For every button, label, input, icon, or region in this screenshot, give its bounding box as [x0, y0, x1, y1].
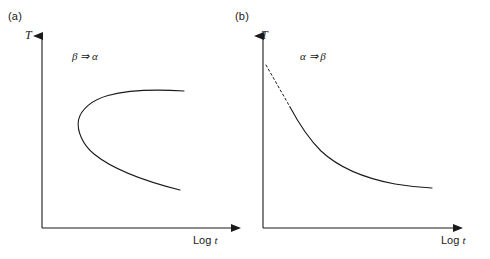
panel-b-plot [245, 0, 490, 259]
figure-container: (a) T Log t β ⇒ α (b) T Log t α ⇒ β [0, 0, 490, 259]
panel-a: (a) T Log t β ⇒ α [0, 0, 245, 259]
panel-b-metastable-dashed-extrapolation [266, 65, 290, 107]
panel-b-transformation-curve [290, 107, 432, 188]
panel-a-ttt-c-curve [78, 90, 184, 190]
panel-a-plot [0, 0, 245, 259]
panel-b: (b) T Log t α ⇒ β [245, 0, 490, 259]
